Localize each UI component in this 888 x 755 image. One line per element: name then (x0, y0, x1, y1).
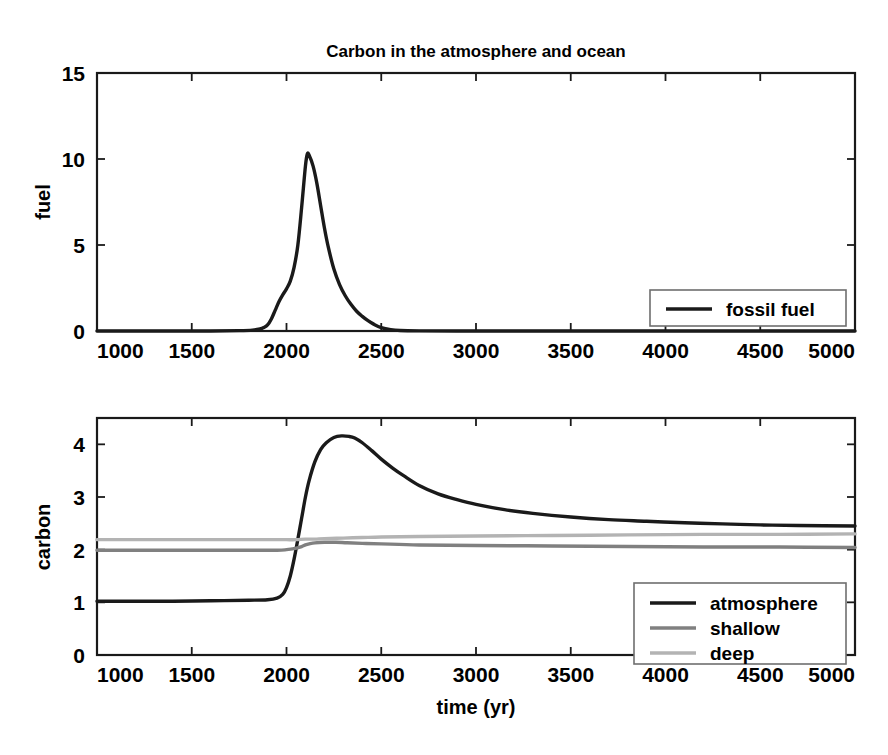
y-tick-label: 15 (62, 62, 86, 85)
y-tick-label: 3 (73, 486, 85, 509)
legend-label-shallow: shallow (710, 618, 780, 639)
x-tick-label: 2500 (358, 339, 405, 362)
y-axis-label-bottom: carbon (32, 504, 54, 571)
legend-bottom[interactable]: atmosphereshallowdeep (634, 583, 846, 664)
y-tick-label: 2 (73, 539, 85, 562)
y-tick-label: 1 (73, 591, 85, 614)
x-tick-label: 2500 (358, 663, 405, 686)
x-tick-label: 3000 (453, 339, 500, 362)
legend-top[interactable]: fossil fuel (650, 290, 846, 326)
x-tick-label: 4500 (737, 663, 784, 686)
x-tick-label: 2000 (263, 339, 310, 362)
x-tick-label: 3500 (547, 339, 594, 362)
x-tick-label: 5000 (808, 663, 855, 686)
x-tick-label: 4000 (642, 663, 689, 686)
y-tick-label: 10 (62, 148, 85, 171)
y-tick-label: 4 (73, 433, 85, 456)
y-tick-label: 0 (73, 320, 85, 343)
x-tick-label: 1000 (97, 663, 144, 686)
figure-container: Carbon in the atmosphere and ocean 10001… (0, 0, 888, 755)
legend-label-deep: deep (710, 643, 754, 664)
x-tick-label: 5000 (808, 339, 855, 362)
chart-title: Carbon in the atmosphere and ocean (326, 42, 625, 61)
x-tick-label: 3000 (453, 663, 500, 686)
y-axis-label-top: fuel (32, 184, 54, 220)
legend-label-atmosphere: atmosphere (710, 593, 818, 614)
x-axis-label-bottom: time (yr) (437, 696, 516, 718)
y-tick-label: 0 (73, 644, 85, 667)
legend-label-fossil-fuel: fossil fuel (726, 299, 815, 320)
x-tick-label: 1000 (97, 339, 144, 362)
y-tick-label: 5 (73, 234, 85, 257)
x-tick-label: 4500 (737, 339, 784, 362)
chart-canvas: Carbon in the atmosphere and ocean 10001… (0, 0, 888, 755)
x-tick-label: 4000 (642, 339, 689, 362)
x-tick-label: 2000 (263, 663, 310, 686)
x-tick-label: 1500 (168, 339, 215, 362)
x-tick-label: 3500 (547, 663, 594, 686)
x-tick-label: 1500 (168, 663, 215, 686)
